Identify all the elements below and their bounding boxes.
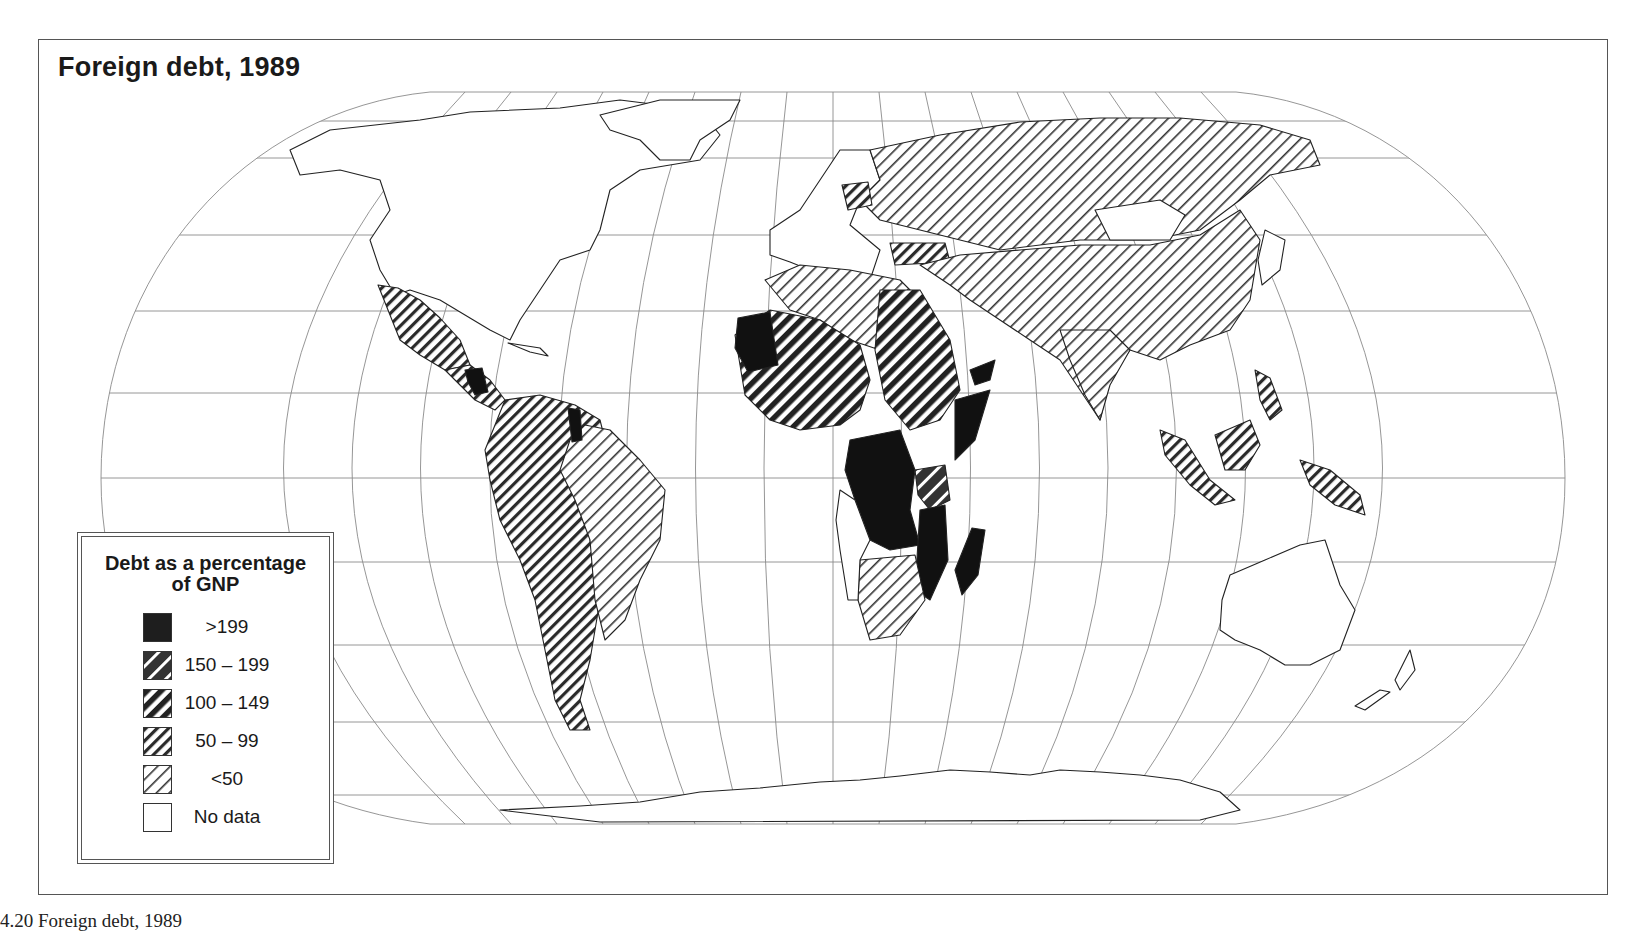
region-yemen xyxy=(970,360,995,385)
region-borneo xyxy=(1215,420,1260,470)
figure-caption: 4.20 Foreign debt, 1989 xyxy=(0,910,182,932)
swatch-medium-hatch-icon xyxy=(143,727,172,756)
region-antarctica xyxy=(500,770,1240,822)
region-southern-africa xyxy=(858,555,925,640)
region-png xyxy=(1300,460,1365,515)
legend-title-line1: Debt as a percentage xyxy=(78,553,333,574)
swatch-solid-icon xyxy=(143,613,172,642)
region-philippines xyxy=(1255,370,1282,420)
swatch-light-hatch-icon xyxy=(143,765,172,794)
legend-item-no-data: No data xyxy=(143,803,313,833)
legend-item-over-199: >199 xyxy=(143,613,313,643)
region-new-zealand xyxy=(1395,650,1415,690)
legend-label: 150 – 199 xyxy=(177,654,277,676)
region-new-zealand-south xyxy=(1355,690,1390,710)
region-western-europe xyxy=(770,150,880,280)
legend-label: 50 – 99 xyxy=(177,730,277,752)
region-caribbean xyxy=(508,343,548,356)
region-madagascar xyxy=(955,528,985,595)
region-horn xyxy=(955,390,990,460)
legend-label: >199 xyxy=(177,616,277,638)
swatch-dense-hatch-icon xyxy=(143,651,172,680)
legend-item-50-99: 50 – 99 xyxy=(143,727,313,757)
legend-title: Debt as a percentage of GNP xyxy=(78,553,333,595)
region-australia xyxy=(1220,540,1355,665)
region-poland xyxy=(842,182,872,210)
legend-label: No data xyxy=(177,806,277,828)
legend-label: 100 – 149 xyxy=(177,692,277,714)
swatch-blank-icon xyxy=(143,803,172,832)
legend-label: <50 xyxy=(177,768,277,790)
legend-item-100-149: 100 – 149 xyxy=(143,689,313,719)
region-japan xyxy=(1258,230,1285,285)
legend-item-under-50: <50 xyxy=(143,765,313,795)
region-tanzania xyxy=(915,465,950,510)
legend-title-line2: of GNP xyxy=(78,574,333,595)
legend: Debt as a percentage of GNP >199 150 – 1… xyxy=(77,532,334,864)
swatch-wide-hatch-icon xyxy=(143,689,172,718)
legend-item-150-199: 150 – 199 xyxy=(143,651,313,681)
